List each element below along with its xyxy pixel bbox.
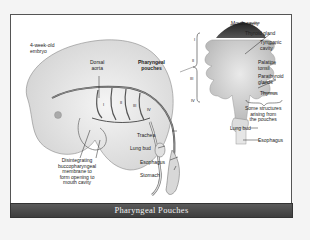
label-embryo-line2: embryo bbox=[30, 49, 54, 55]
label-roman-ii-left: II bbox=[120, 100, 122, 106]
label-tympanic-cavity: Tympanic cavity bbox=[260, 40, 281, 51]
label-pouches-line2: pouches bbox=[138, 66, 165, 72]
label-structures-line3: the pouches bbox=[245, 117, 281, 123]
label-lung-bud-left: Lung bud bbox=[130, 146, 151, 152]
label-buccopharyngeal-membrane: Disintegrating buccopharyngeal membrane … bbox=[58, 158, 96, 186]
label-embryo: 4-week-old embryo bbox=[30, 43, 54, 54]
label-roman-iv-right: IV bbox=[191, 98, 195, 104]
label-lung-bud-right: Lung bud bbox=[230, 126, 251, 132]
label-thymus: Thymus bbox=[260, 91, 278, 97]
label-roman-i-right: I bbox=[194, 37, 195, 43]
label-stomach: Stomach bbox=[140, 173, 160, 179]
label-parathyroid-line2: glands bbox=[258, 80, 284, 86]
label-esophagus-left: Esophagus bbox=[140, 160, 165, 166]
label-dorsal-line2: aorta bbox=[90, 66, 104, 72]
label-tympanic-line2: cavity bbox=[260, 46, 281, 52]
figure-caption: Pharyngeal Pouches bbox=[10, 203, 293, 218]
label-some-structures: Some structures arising from the pouches bbox=[245, 106, 281, 123]
label-palatine-line2: tonsil bbox=[258, 66, 276, 72]
label-dorsal-aorta: Dorsal aorta bbox=[90, 60, 104, 71]
label-roman-iii-left: III bbox=[133, 103, 136, 109]
label-pharyngeal-pouches: Pharyngeal pouches bbox=[138, 60, 165, 71]
label-mouth-cavity: Mouth cavity bbox=[231, 21, 259, 27]
label-membrane-line5: mouth cavity bbox=[58, 180, 96, 186]
label-trachea: Trachea bbox=[137, 133, 155, 139]
label-parathyroid-glands: Parathyroid glands bbox=[258, 74, 284, 85]
label-roman-iv-left: IV bbox=[147, 107, 151, 113]
label-thyroid-gland: Thyroid gland bbox=[245, 31, 275, 37]
label-roman-ii-right: II bbox=[192, 58, 194, 64]
label-palatine-tonsil: Palatine tonsil bbox=[258, 60, 276, 71]
label-roman-i-left: I bbox=[103, 102, 104, 108]
label-esophagus-right: Esophagus bbox=[258, 138, 283, 144]
label-roman-iii-right: III bbox=[190, 76, 193, 82]
